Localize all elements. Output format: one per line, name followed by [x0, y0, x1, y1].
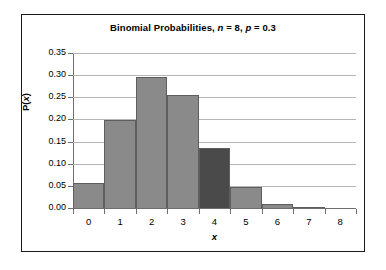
gridline [73, 53, 356, 54]
bar [167, 95, 198, 208]
x-axis-tick [73, 209, 74, 214]
y-axis-tick-labels: 0.000.050.100.150.200.250.300.35 [22, 15, 66, 251]
y-axis-tick [68, 53, 73, 54]
y-axis-tick [68, 75, 73, 76]
chart-title-prefix: Binomial Probabilities, [110, 22, 217, 33]
y-axis-tick-label: 0.30 [26, 69, 66, 79]
y-axis-tick [68, 142, 73, 143]
y-axis-tick-label: 0.20 [26, 113, 66, 123]
chart-title-n-value: = 8, [223, 22, 245, 33]
bar [230, 187, 261, 208]
x-axis-tick-label: 5 [231, 216, 261, 227]
y-axis-tick-label: 0.35 [26, 47, 66, 57]
y-axis-tick-label: 0.25 [26, 91, 66, 101]
x-axis-tick-label: 7 [294, 216, 324, 227]
bar [104, 120, 135, 208]
bar [136, 77, 167, 208]
y-axis-tick [68, 97, 73, 98]
y-axis-tick [68, 164, 73, 165]
y-axis-tick [68, 186, 73, 187]
x-axis-tick [199, 209, 200, 214]
x-axis-tick-label: 1 [105, 216, 135, 227]
y-axis-tick-label: 0.15 [26, 136, 66, 146]
y-axis-tick-label: 0.05 [26, 180, 66, 190]
x-axis-tick-label: 4 [200, 216, 230, 227]
bar [199, 148, 230, 208]
x-axis-tick [167, 209, 168, 214]
x-axis-tick-label: 6 [262, 216, 292, 227]
y-axis-tick [68, 119, 73, 120]
x-axis-tick [293, 209, 294, 214]
x-axis-tick-label: 3 [168, 216, 198, 227]
y-axis-tick [68, 208, 73, 209]
chart-frame: Binomial Probabilities, n = 8, p = 0.3 P… [21, 14, 365, 252]
x-axis-tick-label: 2 [137, 216, 167, 227]
x-axis-tick [136, 209, 137, 214]
x-axis-title: x [73, 231, 356, 242]
x-axis-tick [325, 209, 326, 214]
chart-title: Binomial Probabilities, n = 8, p = 0.3 [22, 22, 364, 33]
x-axis-tick-label: 0 [74, 216, 104, 227]
x-axis-tick [230, 209, 231, 214]
gridline [73, 208, 356, 209]
x-axis-tick [356, 209, 357, 214]
x-axis-tick [104, 209, 105, 214]
chart-title-p-value: = 0.3 [251, 22, 276, 33]
gridline [73, 75, 356, 76]
plot-area [73, 53, 356, 208]
gridline [73, 97, 356, 98]
y-axis-tick-label: 0.00 [26, 202, 66, 212]
y-axis-tick-label: 0.10 [26, 158, 66, 168]
x-axis-tick [262, 209, 263, 214]
x-axis-tick-label: 8 [325, 216, 355, 227]
bar [73, 183, 104, 209]
bar [262, 204, 293, 208]
bar [293, 207, 324, 208]
